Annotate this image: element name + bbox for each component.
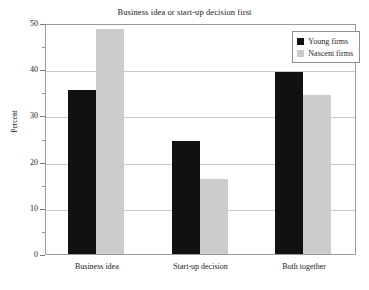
bar-chart: Business idea or start-up decision first… bbox=[0, 0, 369, 290]
legend-label: Nascent firms bbox=[308, 49, 353, 58]
bar-young-firms bbox=[275, 72, 303, 254]
legend-item: Young firms bbox=[297, 35, 353, 47]
x-tick-label: Both together bbox=[282, 262, 326, 271]
y-tick-major bbox=[40, 255, 45, 256]
bar-young-firms bbox=[172, 141, 200, 254]
x-tick-label: Start-up decision bbox=[173, 262, 227, 271]
bar-young-firms bbox=[68, 90, 96, 254]
legend-swatch-icon bbox=[297, 38, 304, 45]
bar-nascent-firms bbox=[303, 95, 331, 254]
x-tick-label: Business idea bbox=[75, 262, 119, 271]
gridline bbox=[46, 71, 355, 72]
y-tick-label: 10 bbox=[5, 203, 38, 212]
y-tick-label: 20 bbox=[5, 157, 38, 166]
bar-nascent-firms bbox=[200, 179, 228, 254]
y-tick-label: 0 bbox=[5, 250, 38, 259]
y-axis-labels: 01020304050 bbox=[0, 0, 38, 290]
legend-label: Young firms bbox=[308, 37, 348, 46]
legend-swatch-icon bbox=[297, 50, 304, 57]
y-tick-label: 30 bbox=[5, 111, 38, 120]
y-tick-label: 50 bbox=[5, 19, 38, 28]
legend-item: Nascent firms bbox=[297, 47, 353, 59]
y-tick-label: 40 bbox=[5, 65, 38, 74]
chart-title: Business idea or start-up decision first bbox=[0, 7, 369, 17]
bar-nascent-firms bbox=[96, 29, 124, 254]
legend: Young firmsNascent firms bbox=[292, 31, 360, 63]
